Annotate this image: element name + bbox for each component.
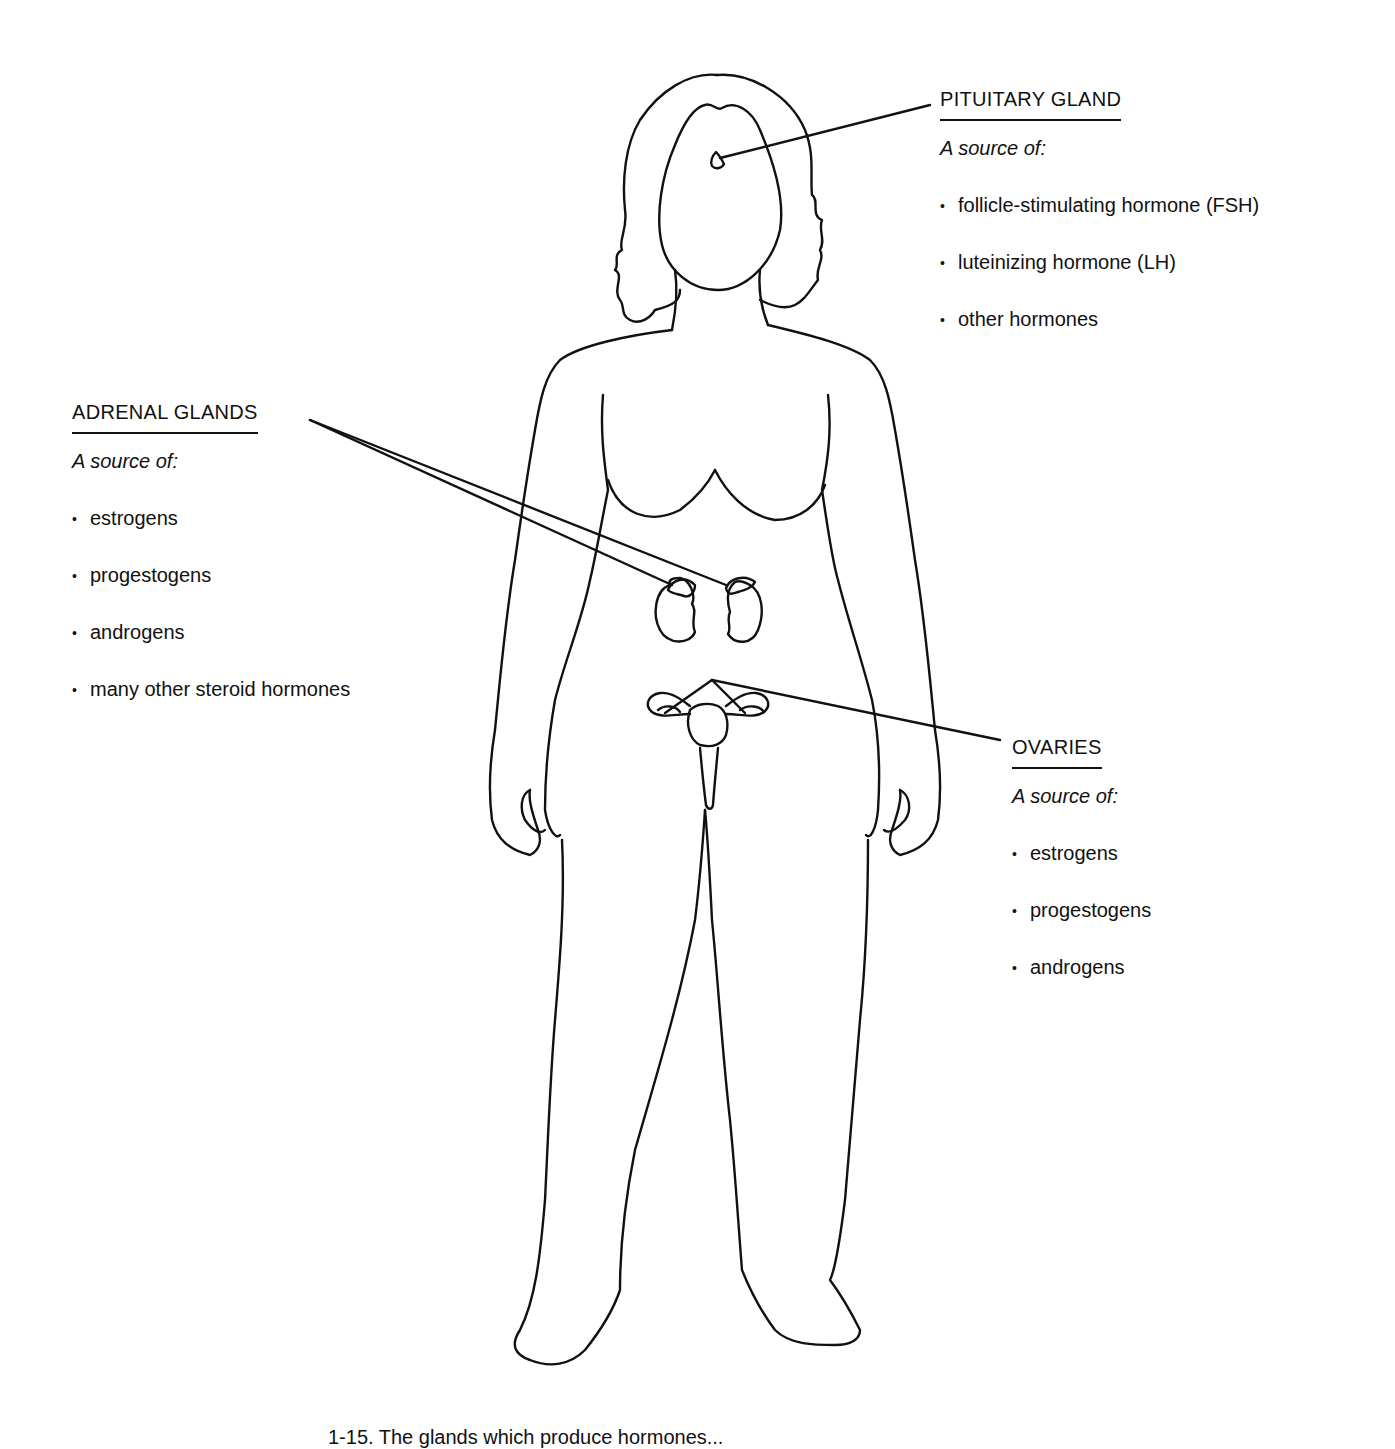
pituitary-title: PITUITARY GLAND [940,88,1121,121]
adrenal-leader-left [310,420,672,585]
cervix-vagina [700,748,718,809]
list-item: progestogens [72,564,350,587]
pituitary-subtitle: A source of: [940,137,1259,160]
uterus [688,704,727,746]
adrenal-leader-right [310,420,726,585]
pituitary-gland [711,152,724,168]
adrenal-label: ADRENAL GLANDS A source of: estrogens pr… [72,401,350,701]
right-fallopian-tube [726,693,768,716]
ovaries-hormone-list: estrogens progestogens androgens [1012,842,1151,979]
adrenal-subtitle: A source of: [72,450,350,473]
list-item: androgens [1012,956,1151,979]
body-outline [490,330,672,855]
hair-outline [615,75,717,322]
left-kidney [656,578,695,642]
left-hand [522,790,545,832]
adrenal-hormone-list: estrogens progestogens androgens many ot… [72,507,350,701]
list-item: progestogens [1012,899,1151,922]
right-hand [884,790,909,832]
list-item: other hormones [940,308,1259,331]
ovaries-subtitle: A source of: [1012,785,1151,808]
pituitary-label: PITUITARY GLAND A source of: follicle-st… [940,88,1259,331]
ovaries-title: OVARIES [1012,736,1102,769]
ovary-leader-left [665,680,712,713]
adrenal-title: ADRENAL GLANDS [72,401,258,434]
ovary-leader-main [712,680,1000,740]
list-item: estrogens [1012,842,1151,865]
ovaries-label: OVARIES A source of: estrogens progestog… [1012,736,1151,979]
left-fallopian-tube [648,693,690,716]
list-item: follicle-stimulating hormone (FSH) [940,194,1259,217]
list-item: androgens [72,621,350,644]
list-item: many other steroid hormones [72,678,350,701]
figure-caption: 1-15. The glands which produce hormones.… [328,1426,723,1449]
pituitary-leader [720,105,930,158]
pituitary-hormone-list: follicle-stimulating hormone (FSH) lutei… [940,194,1259,331]
list-item: estrogens [72,507,350,530]
face-outline [659,104,781,290]
list-item: luteinizing hormone (LH) [940,251,1259,274]
